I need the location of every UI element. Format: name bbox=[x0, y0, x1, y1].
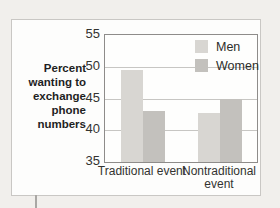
legend: Men Women bbox=[195, 38, 259, 76]
bar-men-nontraditional bbox=[198, 113, 220, 162]
bar-men-traditional bbox=[121, 70, 143, 162]
y-tick-55: 55 bbox=[68, 27, 100, 41]
bar-women-nontraditional bbox=[220, 99, 242, 163]
page-rule-line bbox=[35, 195, 37, 208]
legend-label-men: Men bbox=[216, 40, 240, 54]
figure-box: Percent wanting to exchange phone number… bbox=[11, 19, 261, 196]
y-axis-tick-labels: 3540455055 bbox=[68, 34, 100, 161]
y-tick-40: 40 bbox=[68, 122, 100, 136]
bar-women-traditional bbox=[143, 111, 165, 162]
scanned-page: Percent wanting to exchange phone number… bbox=[0, 0, 280, 208]
plot-area: Men Women bbox=[104, 34, 258, 163]
x-category-label-nontraditional: Nontraditional event bbox=[174, 165, 264, 191]
legend-label-women: Women bbox=[216, 59, 259, 73]
women-series-swatch bbox=[195, 59, 208, 72]
men-series-swatch bbox=[195, 40, 208, 53]
legend-item-men: Men bbox=[195, 38, 259, 55]
legend-item-women: Women bbox=[195, 57, 259, 74]
y-tick-50: 50 bbox=[68, 59, 100, 73]
x-axis-category-labels: Traditional eventNontraditional event bbox=[104, 165, 256, 195]
y-tick-35: 35 bbox=[68, 154, 100, 168]
y-tick-45: 45 bbox=[68, 91, 100, 105]
